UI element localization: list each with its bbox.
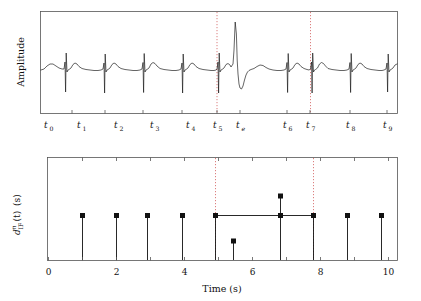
- ecg-y-axis-label: Amplitude: [15, 37, 26, 88]
- svg-text:9: 9: [389, 125, 393, 132]
- figure-container: t 0 t 1 t 2 t 3 t 4 t 5: [0, 0, 421, 301]
- y-label-unit: (s): [12, 194, 22, 206]
- svg-text:e: e: [242, 125, 246, 132]
- svg-text:4: 4: [192, 125, 196, 132]
- svg-text:t: t: [236, 120, 240, 130]
- stem-x-axis-label: Time (s): [202, 283, 241, 294]
- y-label-argument: (t): [12, 211, 22, 222]
- svg-text:t: t: [383, 120, 387, 130]
- svg-text:t: t: [283, 120, 287, 130]
- svg-text:t: t: [306, 120, 310, 130]
- svg-text:t: t: [346, 120, 350, 130]
- x-tick-label: 4: [182, 267, 188, 277]
- svg-text:7: 7: [312, 125, 316, 132]
- y-label-subscript-if: IF: [17, 222, 24, 229]
- x-tick-label: 0: [46, 267, 52, 277]
- x-tick-label: 10: [383, 267, 395, 277]
- figure-svg: t 0 t 1 t 2 t 3 t 4 t 5: [0, 0, 421, 301]
- svg-text:t: t: [77, 120, 81, 130]
- svg-text:t: t: [186, 120, 190, 130]
- svg-text:3: 3: [156, 125, 160, 132]
- x-tick-label: 2: [114, 267, 120, 277]
- svg-text:t: t: [150, 120, 154, 130]
- svg-text:5: 5: [219, 125, 223, 132]
- svg-text:t: t: [44, 120, 48, 130]
- svg-text:t: t: [213, 120, 217, 130]
- svg-text:t: t: [114, 120, 118, 130]
- svg-text:8: 8: [352, 125, 356, 132]
- svg-text:1: 1: [83, 125, 87, 132]
- x-tick-label: 8: [318, 267, 324, 277]
- stem-y-axis-label: d n IF (t) (s): [10, 194, 24, 235]
- x-tick-label: 6: [250, 267, 256, 277]
- svg-text:0: 0: [50, 125, 54, 132]
- figure-background: [0, 0, 421, 301]
- svg-text:2: 2: [120, 125, 124, 132]
- svg-text:6: 6: [289, 125, 293, 132]
